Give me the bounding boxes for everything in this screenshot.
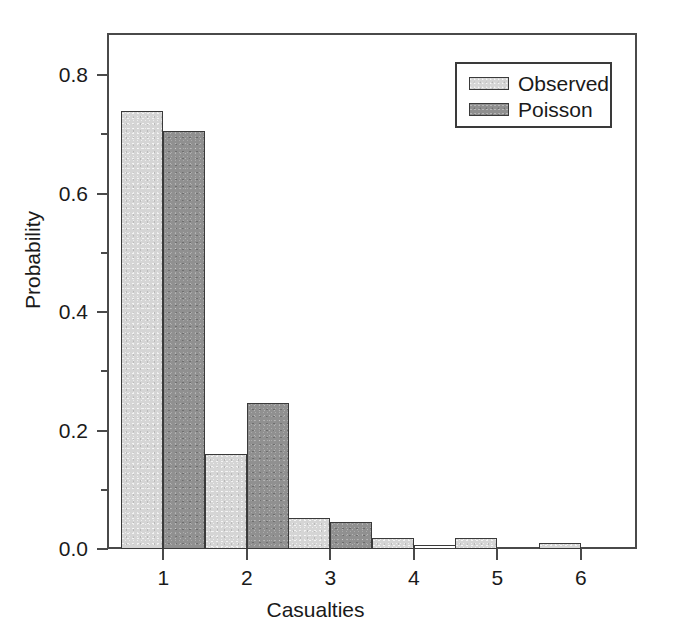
x-axis-tick: [246, 549, 248, 560]
x-axis-title: Casualties: [0, 598, 673, 622]
bar-observed-4: [372, 538, 414, 549]
x-axis-tick-label: 4: [394, 566, 434, 590]
chart-legend: Observed Poisson: [455, 62, 612, 128]
x-axis-tick: [329, 549, 331, 560]
x-axis-tick: [162, 549, 164, 560]
x-axis-tick-label: 2: [227, 566, 267, 590]
x-axis-tick: [496, 549, 498, 560]
figure-canvas: 0.00.20.40.60.8 123456 Observed Poisson …: [0, 0, 673, 638]
bar-observed-2: [205, 454, 247, 549]
bar-observed-5: [455, 538, 497, 549]
legend-label-poisson: Poisson: [518, 99, 593, 120]
legend-item-observed: Observed: [469, 70, 610, 96]
legend-swatch-observed-icon: [469, 77, 509, 90]
y-axis-tick-label: 0.0: [18, 538, 88, 559]
legend-swatch-poisson-icon: [469, 103, 509, 116]
x-axis-tick: [413, 549, 415, 560]
bar-observed-6: [539, 543, 581, 550]
bar-poisson-3: [330, 522, 372, 549]
bar-poisson-1: [163, 131, 205, 549]
y-axis-title: Probability: [21, 180, 45, 340]
bar-observed-1: [121, 111, 163, 549]
legend-label-observed: Observed: [518, 73, 609, 94]
bar-observed-3: [288, 518, 330, 549]
y-axis-tick-label: 0.2: [18, 420, 88, 441]
x-axis-tick-label: 3: [310, 566, 350, 590]
bar-poisson-4: [414, 545, 456, 549]
x-axis-tick-label: 6: [561, 566, 601, 590]
x-axis-title-text: Casualties: [266, 598, 364, 622]
y-axis-tick-label: 0.8: [18, 64, 88, 85]
legend-item-poisson: Poisson: [469, 96, 610, 122]
x-axis-tick-label: 5: [477, 566, 517, 590]
x-axis-tick: [580, 549, 582, 560]
x-axis-tick-label: 1: [143, 566, 183, 590]
bar-poisson-2: [247, 403, 289, 549]
